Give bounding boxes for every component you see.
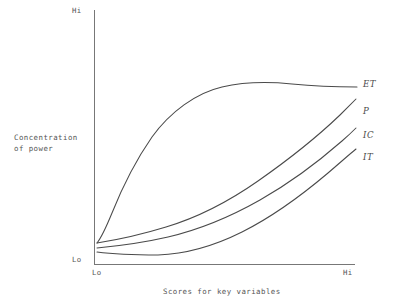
y-axis-tick-hi: Hi [72,6,81,15]
series-label-ic: IC [363,130,374,140]
x-axis-tick-hi: Hi [343,268,352,277]
y-axis-label-line-1: Concentration [14,132,78,143]
series-label-et: ET [363,79,376,89]
curve-ic [97,128,356,248]
curve-it [97,149,356,255]
x-axis-tick-lo: Lo [92,268,101,277]
series-label-it: IT [363,152,373,162]
series-label-p: P [363,106,369,116]
y-axis-tick-lo: Lo [72,255,81,264]
y-axis-label: Concentration of power [14,132,78,154]
chart-container: Hi Lo Lo Hi Concentration of power Score… [0,0,401,306]
curve-p [97,99,356,243]
curve-et [97,82,357,243]
y-axis-label-line-2: of power [14,143,78,154]
x-axis-label: Scores for key variables [163,286,281,297]
